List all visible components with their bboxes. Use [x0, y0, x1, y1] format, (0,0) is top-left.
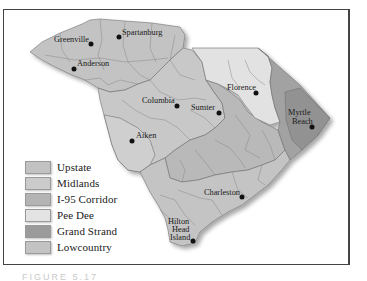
legend-item-pee-dee: Pee Dee [25, 207, 117, 223]
legend-swatch-lowcountry [25, 241, 51, 254]
svg-text:Greenville: Greenville [54, 35, 89, 44]
legend-swatch-pee-dee [25, 209, 51, 222]
legend-item-grand-strand: Grand Strand [25, 223, 117, 239]
svg-text:Spartanburg: Spartanburg [122, 28, 162, 37]
svg-text:Charleston: Charleston [204, 188, 241, 197]
legend-item-lowcountry: Lowcountry [25, 239, 117, 255]
svg-text:Sumter: Sumter [191, 103, 215, 112]
figure-caption: FIGURE 5.17 [22, 272, 98, 281]
legend-item-upstate: Upstate [25, 159, 117, 175]
svg-text:Beach: Beach [292, 117, 314, 126]
legend-swatch-midlands [25, 177, 51, 190]
legend-swatch-grand-strand [25, 225, 51, 238]
svg-text:Anderson: Anderson [77, 59, 110, 68]
legend-label: Grand Strand [57, 225, 117, 237]
svg-text:Aiken: Aiken [136, 131, 157, 140]
svg-text:Columbia: Columbia [142, 96, 175, 105]
legend-swatch-upstate [25, 161, 51, 174]
svg-text:Florence: Florence [227, 83, 256, 92]
svg-text:Myrtle: Myrtle [288, 108, 311, 117]
legend-item-i95-corridor: I-95 Corridor [25, 191, 117, 207]
svg-text:Island: Island [170, 233, 191, 242]
legend-item-midlands: Midlands [25, 175, 117, 191]
legend-label: Pee Dee [57, 209, 94, 221]
legend-swatch-i95-corridor [25, 193, 51, 206]
map-legend: Upstate Midlands I-95 Corridor Pee Dee G… [25, 159, 117, 255]
legend-label: Midlands [57, 177, 99, 189]
legend-label: I-95 Corridor [57, 193, 117, 205]
legend-label: Lowcountry [57, 241, 112, 253]
legend-label: Upstate [57, 161, 91, 173]
